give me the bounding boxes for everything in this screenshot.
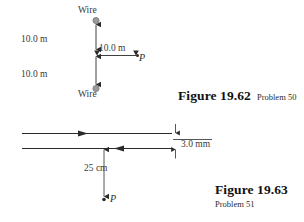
figure-19-63-caption-subtitle: Problem 51 [215, 199, 288, 209]
distance-to-point-label: 25 cm [84, 164, 107, 174]
figure-19-63-caption: Figure 19.63 Problem 51 [215, 182, 288, 209]
distance-lower-label: 10.0 m [21, 70, 47, 80]
figure-19-62-caption: Figure 19.62 Problem 50 [178, 88, 296, 104]
current-arrow-right [78, 131, 88, 137]
gap-distance-label: 3.0 mm [181, 140, 210, 150]
wire-bottom-label: Wire [78, 90, 97, 100]
figure-19-62-drawing [93, 17, 139, 91]
figure-19-63-drawing [22, 124, 212, 201]
figure-19-62-caption-subtitle: Problem 50 [257, 92, 296, 102]
point-p-label-bottom: P [110, 194, 116, 204]
wire-top-dot [93, 17, 99, 23]
distance-upper-label: 10.0 m [21, 35, 47, 45]
point-p-label-top: P [139, 53, 145, 63]
current-arrow-left [114, 146, 124, 152]
figure-19-63-caption-title: Figure 19.63 [215, 182, 288, 198]
figure-19-62-caption-title: Figure 19.62 [178, 88, 251, 104]
distance-horizontal-label: 10.0 m [99, 44, 125, 54]
point-p-marker-bottom [102, 198, 106, 202]
textbook-figure-sheet: Wire Wire 10.0 m 10.0 m 10.0 m P Figure … [0, 0, 304, 222]
wire-top-label: Wire [78, 6, 97, 16]
